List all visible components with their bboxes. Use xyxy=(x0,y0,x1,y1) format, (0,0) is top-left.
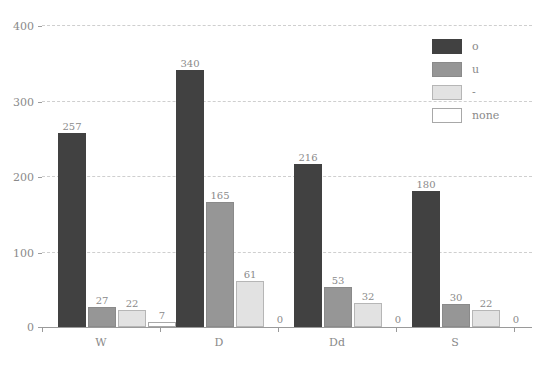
legend-label-o: o xyxy=(472,41,479,52)
bar-chart: 400 300 200 100 0 257 xyxy=(0,0,546,365)
x-cat-label-S: S xyxy=(451,337,459,348)
bar-value-S-u: 30 xyxy=(450,293,463,303)
gridline-100: 100 xyxy=(42,252,532,253)
bar-W-u[interactable]: 27 xyxy=(88,307,116,327)
bar-value-D-u: 165 xyxy=(210,191,229,201)
bar-value-Dd-none: 0 xyxy=(395,315,401,325)
bar-value-D-dash: 61 xyxy=(244,270,257,280)
legend-label-none: none xyxy=(472,110,499,121)
y-tick-mark-200 xyxy=(38,177,42,178)
y-tick-label-100: 100 xyxy=(13,247,34,258)
legend-label-dash: - xyxy=(472,87,476,98)
y-tick-label-300: 300 xyxy=(13,96,34,107)
bar-value-Dd-o: 216 xyxy=(298,153,317,163)
y-tick-mark-100 xyxy=(38,253,42,254)
bar-value-W-o: 257 xyxy=(62,122,81,132)
x-tick-mark-3 xyxy=(396,327,397,332)
bar-value-W-none: 7 xyxy=(159,311,165,321)
x-cat-label-D: D xyxy=(215,337,224,348)
y-tick-label-0: 0 xyxy=(27,322,34,333)
gridline-400: 400 xyxy=(42,25,532,26)
legend-label-u: u xyxy=(472,64,479,75)
bar-D-o[interactable]: 340 xyxy=(176,70,204,327)
gridline-200: 200 xyxy=(42,176,532,177)
bar-Dd-u[interactable]: 53 xyxy=(324,287,352,327)
bar-value-Dd-dash: 32 xyxy=(362,292,375,302)
bar-Dd-o[interactable]: 216 xyxy=(294,164,322,327)
legend-swatch-o-icon xyxy=(432,39,462,54)
bar-W-dash[interactable]: 22 xyxy=(118,310,146,327)
bar-W-o[interactable]: 257 xyxy=(58,133,86,327)
x-cat-label-Dd: Dd xyxy=(329,337,345,348)
legend-item-o[interactable]: o xyxy=(432,35,499,58)
bar-S-u[interactable]: 30 xyxy=(442,304,470,327)
y-tick-label-200: 200 xyxy=(13,172,34,183)
y-tick-mark-300 xyxy=(38,102,42,103)
bar-value-S-dash: 22 xyxy=(480,299,493,309)
x-cat-label-W: W xyxy=(95,337,106,348)
bar-W-none[interactable]: 7 xyxy=(148,322,176,327)
x-tick-mark-0 xyxy=(42,327,43,332)
bar-value-D-none: 0 xyxy=(277,315,283,325)
legend-swatch-u-icon xyxy=(432,62,462,77)
legend-swatch-none-icon xyxy=(432,108,462,123)
bar-S-o[interactable]: 180 xyxy=(412,191,440,327)
x-tick-mark-1 xyxy=(160,327,161,332)
bar-value-D-o: 340 xyxy=(180,59,199,69)
legend: o u - none xyxy=(432,35,499,127)
y-tick-mark-400 xyxy=(38,26,42,27)
legend-item-u[interactable]: u xyxy=(432,58,499,81)
bar-value-S-o: 180 xyxy=(416,180,435,190)
y-tick-label-400: 400 xyxy=(13,21,34,32)
legend-item-none[interactable]: none xyxy=(432,104,499,127)
x-tick-mark-2 xyxy=(278,327,279,332)
bar-value-W-u: 27 xyxy=(96,296,109,306)
bar-value-W-dash: 22 xyxy=(126,299,139,309)
x-tick-mark-4 xyxy=(514,327,515,332)
bar-Dd-dash[interactable]: 32 xyxy=(354,303,382,327)
x-axis-line xyxy=(42,327,532,328)
legend-swatch-dash-icon xyxy=(432,85,462,100)
bar-value-S-none: 0 xyxy=(513,315,519,325)
bar-D-dash[interactable]: 61 xyxy=(236,281,264,327)
bar-D-u[interactable]: 165 xyxy=(206,202,234,327)
bar-value-Dd-u: 53 xyxy=(332,276,345,286)
bar-S-dash[interactable]: 22 xyxy=(472,310,500,327)
legend-item-dash[interactable]: - xyxy=(432,81,499,104)
